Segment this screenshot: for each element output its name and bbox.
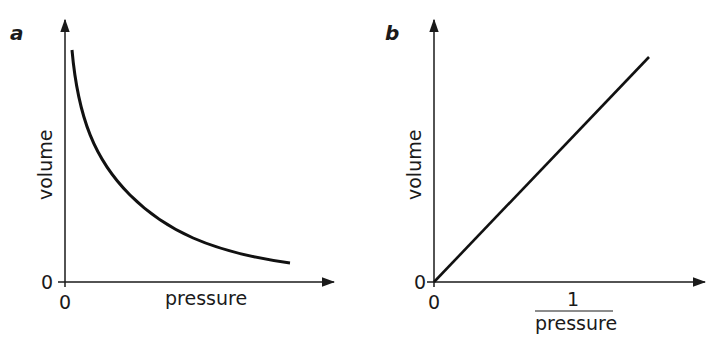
panel-b-line bbox=[434, 57, 649, 282]
panel-a: a 0 0 pressure volume bbox=[10, 20, 334, 313]
panel-a-x-label: pressure bbox=[165, 287, 247, 309]
panel-a-x-origin: 0 bbox=[59, 291, 71, 313]
figure: a 0 0 pressure volume b 0 0 1 pressure v… bbox=[0, 0, 723, 342]
panel-a-y-origin: 0 bbox=[41, 271, 53, 293]
panel-a-letter: a bbox=[10, 21, 24, 45]
panel-a-y-label: volume bbox=[34, 130, 56, 200]
panel-b: b 0 0 1 pressure volume bbox=[385, 20, 705, 334]
panel-b-x-label-numerator: 1 bbox=[567, 288, 579, 310]
panel-b-x-label-denominator: pressure bbox=[535, 312, 617, 334]
panel-b-y-origin: 0 bbox=[414, 271, 426, 293]
panel-b-letter: b bbox=[385, 21, 399, 45]
panel-a-curve bbox=[72, 50, 290, 263]
panel-b-x-origin: 0 bbox=[428, 291, 440, 313]
panel-b-y-label: volume bbox=[403, 130, 425, 200]
